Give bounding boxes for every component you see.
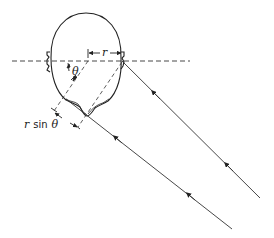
sound-localization-diagram: r θ rsinθ xyxy=(0,0,274,238)
theta-label: θ xyxy=(72,65,79,78)
ear-construction-line xyxy=(78,62,122,127)
left-ear xyxy=(47,52,50,72)
incident-ray-right-ear xyxy=(122,61,260,198)
head-outline xyxy=(47,13,124,116)
incident-ray-left-ear xyxy=(66,99,232,229)
center-construction-line xyxy=(54,61,88,111)
radius-label: r xyxy=(102,46,108,59)
path-difference-label: rsinθ xyxy=(24,118,59,131)
